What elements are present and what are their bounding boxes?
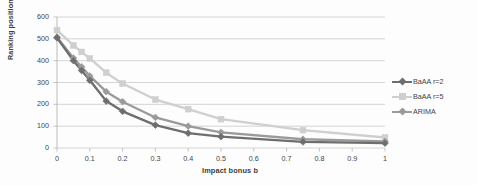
y-tick-label: 400 bbox=[19, 56, 49, 65]
y-tick-label: 300 bbox=[19, 78, 49, 87]
legend-item: BaAA r=2 bbox=[392, 74, 477, 89]
x-axis-title: Impact bonus b bbox=[150, 166, 310, 175]
y-tick-label: 500 bbox=[19, 34, 49, 43]
y-tick-label: 100 bbox=[19, 121, 49, 130]
gridlines-group bbox=[57, 17, 385, 148]
legend-swatch-series-3 bbox=[392, 107, 412, 116]
markers-group bbox=[54, 27, 389, 146]
data-point-marker bbox=[218, 133, 225, 140]
x-tick-label: 0.8 bbox=[304, 154, 334, 163]
legend-diamond-marker-icon bbox=[398, 78, 406, 86]
legend-item: BaAA r=5 bbox=[392, 89, 477, 104]
data-point-marker bbox=[79, 49, 85, 55]
y-tick-label: 200 bbox=[19, 99, 49, 108]
legend-label: BaAA r=5 bbox=[413, 92, 444, 101]
x-tick-label: 0.4 bbox=[173, 154, 203, 163]
y-axis-title: Ranking position bbox=[6, 0, 20, 60]
x-tick-label: 0.5 bbox=[206, 154, 236, 163]
chart-figure: 0100200300400500600 00.10.20.30.40.50.60… bbox=[0, 0, 477, 185]
x-tick-label: 0.1 bbox=[75, 154, 105, 163]
data-point-marker bbox=[87, 56, 93, 62]
y-axis-title-wrap: Ranking position bbox=[8, 18, 22, 138]
legend-swatch-series-1 bbox=[392, 77, 412, 86]
y-tick-label: 600 bbox=[19, 12, 49, 21]
data-point-marker bbox=[185, 130, 192, 137]
legend-item: ARIMA bbox=[392, 104, 477, 119]
data-point-marker bbox=[71, 42, 77, 48]
data-point-marker bbox=[120, 81, 126, 87]
data-point-marker bbox=[185, 123, 192, 130]
x-tick-label: 1 bbox=[370, 154, 400, 163]
x-tick-label: 0.7 bbox=[272, 154, 302, 163]
data-point-marker bbox=[54, 27, 60, 33]
x-tick-label: 0 bbox=[42, 154, 72, 163]
legend-label: BaAA r=2 bbox=[413, 77, 444, 86]
data-point-marker bbox=[218, 116, 224, 122]
x-tick-label: 0.6 bbox=[239, 154, 269, 163]
data-point-marker bbox=[300, 127, 306, 133]
data-point-marker bbox=[153, 97, 159, 103]
legend-square-marker-icon bbox=[399, 93, 406, 100]
chart-legend: BaAA r=2 BaAA r=5 ARIMA bbox=[392, 74, 477, 119]
x-tick-label: 0.9 bbox=[337, 154, 367, 163]
x-tick-label: 0.2 bbox=[108, 154, 138, 163]
legend-label: ARIMA bbox=[413, 107, 436, 116]
legend-swatch-series-2 bbox=[392, 92, 412, 101]
legend-diamond-marker-icon bbox=[398, 108, 406, 116]
x-tick-label: 0.3 bbox=[140, 154, 170, 163]
y-tick-label: 0 bbox=[19, 143, 49, 152]
data-point-marker bbox=[103, 70, 109, 76]
data-point-marker bbox=[152, 122, 159, 129]
data-point-marker bbox=[185, 106, 191, 112]
